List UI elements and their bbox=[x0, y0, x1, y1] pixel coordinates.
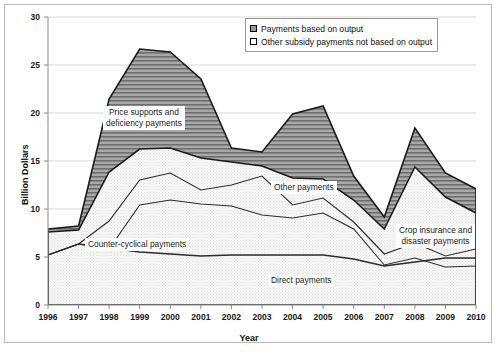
annotation-crop-insurance-line1: Crop insurance and bbox=[399, 225, 472, 236]
xtick-2010: 2010 bbox=[456, 312, 496, 322]
ytick-0: 0 bbox=[16, 300, 40, 310]
legend-swatch-open-icon bbox=[250, 38, 257, 45]
annotation-price-supports-line2: deficiency payments bbox=[106, 118, 182, 129]
annotation-crop-insurance: Crop insurance and disaster payments bbox=[396, 224, 475, 248]
chart-legend: Payments based on output Other subsidy p… bbox=[245, 18, 438, 52]
annotation-crop-insurance-line2: disaster payments bbox=[399, 236, 472, 247]
legend-item-output: Payments based on output bbox=[250, 22, 432, 35]
legend-label-nonoutput: Other subsidy payments not based on outp… bbox=[261, 37, 432, 47]
annotation-other-payments-line1: Other payments bbox=[274, 182, 334, 193]
annotation-counter-cyclical: Counter-cyclical payments bbox=[85, 238, 189, 251]
y-axis-title: Billion Dollars bbox=[20, 144, 30, 205]
annotation-counter-cyclical-line1: Counter-cyclical payments bbox=[88, 239, 186, 250]
chart-canvas bbox=[0, 0, 498, 352]
legend-item-nonoutput: Other subsidy payments not based on outp… bbox=[250, 35, 432, 48]
chart-screenshot: 30 25 20 15 10 5 0 1996 1997 1998 1999 2… bbox=[0, 0, 498, 352]
x-axis-title: Year bbox=[0, 333, 498, 343]
ytick-5: 5 bbox=[16, 252, 40, 262]
ytick-25: 25 bbox=[16, 60, 40, 70]
legend-label-output: Payments based on output bbox=[261, 24, 363, 34]
annotation-direct-payments: Direct payments bbox=[268, 274, 335, 287]
annotation-other-payments: Other payments bbox=[271, 181, 337, 194]
annotation-direct-payments-line1: Direct payments bbox=[271, 275, 332, 286]
annotation-price-supports: Price supports and deficiency payments bbox=[103, 106, 185, 130]
annotation-price-supports-line1: Price supports and bbox=[106, 107, 182, 118]
ytick-10: 10 bbox=[16, 204, 40, 214]
ytick-30: 30 bbox=[16, 12, 40, 22]
legend-swatch-hatched-icon bbox=[250, 25, 257, 32]
ytick-20: 20 bbox=[16, 108, 40, 118]
